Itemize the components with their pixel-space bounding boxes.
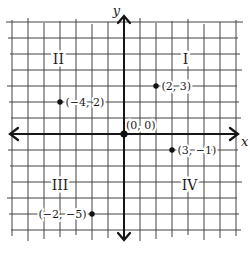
point-marker bbox=[153, 83, 158, 88]
point-label: (−4, 2) bbox=[66, 96, 105, 109]
point-marker bbox=[169, 147, 174, 152]
point-label: (0, 0) bbox=[126, 119, 156, 132]
x-axis-label: x bbox=[241, 134, 249, 149]
quadrant-label-II: II bbox=[53, 51, 64, 67]
point-marker bbox=[89, 211, 94, 216]
coordinate-plane-figure: IIIIIIIV (2, 3)(−4, 2)(0, 0)(3, −1)(−2, … bbox=[0, 0, 250, 258]
quadrant-label-I: I bbox=[183, 51, 189, 67]
point-label: (−2, −5) bbox=[38, 208, 86, 221]
quadrant-label-IV: IV bbox=[182, 177, 199, 193]
quadrant-labels: IIIIIIIV bbox=[52, 51, 199, 193]
point-marker bbox=[120, 130, 127, 137]
quadrant-label-III: III bbox=[52, 177, 69, 193]
point-label: (3, −1) bbox=[178, 144, 217, 157]
coordinate-plane: IIIIIIIV (2, 3)(−4, 2)(0, 0)(3, −1)(−2, … bbox=[0, 0, 250, 258]
point-marker bbox=[57, 99, 62, 104]
y-axis-label: y bbox=[112, 3, 121, 18]
point-label: (2, 3) bbox=[162, 80, 192, 93]
